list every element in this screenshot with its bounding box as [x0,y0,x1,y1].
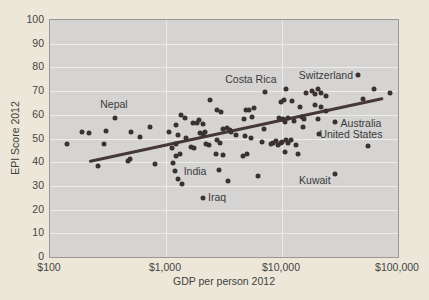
data-point [360,96,365,101]
data-point [219,109,224,114]
data-point [214,151,219,156]
x-tick-label: $10,000 [262,261,300,273]
data-point [282,150,287,155]
data-point [179,182,184,187]
data-point [252,105,257,110]
data-point [200,195,205,200]
data-point [281,98,286,103]
h-gridline [50,186,398,187]
data-point [315,117,320,122]
y-tick-label: 50 [14,132,44,144]
country-label: Iraq [208,191,226,203]
scatter-chart: EPI Score 2012 NepalIndiaIraqCosta RicaK… [0,0,429,300]
data-point [183,116,188,121]
h-gridline [50,162,398,163]
data-point [333,119,338,124]
data-point [174,122,179,127]
h-gridline [50,91,398,92]
data-point [312,103,317,108]
data-point [101,141,106,146]
data-point [388,90,393,95]
data-point [148,124,153,129]
y-tick-label: 80 [14,60,44,72]
data-point [64,141,69,146]
data-point [206,142,211,147]
data-point [249,136,254,141]
data-point [333,172,338,177]
country-label: Australia [341,117,382,129]
x-tick-label: $1,000 [149,261,181,273]
data-point [292,118,297,123]
y-tick-label: 60 [14,108,44,120]
x-tick-label: $100,000 [375,261,419,273]
v-gridline [166,20,167,257]
data-point [202,130,207,135]
data-point [176,132,181,137]
data-point [138,135,143,140]
data-point [260,140,265,145]
data-point [87,131,92,136]
y-tick-label: 70 [14,84,44,96]
h-gridline [50,233,398,234]
data-point [256,173,261,178]
data-point [355,72,360,77]
data-point [173,168,178,173]
data-point [365,144,370,149]
data-point [293,142,298,147]
x-tick-label: $100 [37,261,60,273]
h-gridline [50,44,398,45]
data-point [241,117,246,122]
data-point [113,116,118,121]
data-point [312,91,317,96]
data-point [250,114,255,119]
h-gridline [50,210,398,211]
country-label: Nepal [100,98,127,110]
data-point [207,98,212,103]
data-point [104,128,109,133]
data-point [221,153,226,158]
y-tick-label: 10 [14,226,44,238]
data-point [290,99,295,104]
data-point [263,90,268,95]
data-point [233,132,238,137]
data-point [283,86,288,91]
data-point [80,130,85,135]
data-point [200,122,205,127]
y-tick-label: 30 [14,179,44,191]
data-point [324,94,329,99]
y-tick-label: 90 [14,37,44,49]
data-point [127,156,132,161]
data-point [171,160,176,165]
data-point [192,145,197,150]
data-point [177,151,182,156]
data-point [216,168,221,173]
plot-area: NepalIndiaIraqCosta RicaKuwaitSwitzerlan… [49,19,399,258]
data-point [289,137,294,142]
data-point [304,90,309,95]
data-point [301,124,306,129]
data-point [184,136,189,141]
country-label: Kuwait [299,174,331,186]
data-point [262,127,267,132]
data-point [218,141,223,146]
data-point [285,116,290,121]
data-point [242,133,247,138]
data-point [244,151,249,156]
data-point [302,117,307,122]
country-label: Costa Rica [225,73,276,85]
data-point [298,104,303,109]
data-point [95,163,100,168]
data-point [319,104,324,109]
y-tick-label: 20 [14,203,44,215]
data-point [170,145,175,150]
data-point [225,178,230,183]
data-point [295,151,300,156]
data-point [129,130,134,135]
x-axis-title: GDP per person 2012 [173,275,275,287]
data-point [371,86,376,91]
y-tick-label: 100 [14,13,44,25]
data-point [166,130,171,135]
data-point [324,109,329,114]
country-label: India [184,165,207,177]
data-point [152,162,157,167]
